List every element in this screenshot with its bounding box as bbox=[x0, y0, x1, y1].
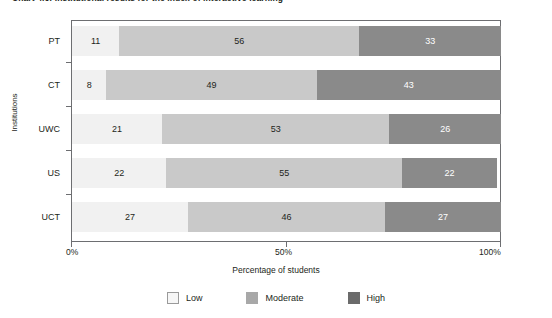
legend: Low Moderate High bbox=[0, 292, 552, 304]
legend-item-low[interactable]: Low bbox=[167, 292, 203, 304]
bar-segment-moderate-uct: 46 bbox=[188, 202, 385, 232]
bar-row-pt: PT 11 56 33 bbox=[72, 26, 501, 56]
legend-label-high: High bbox=[367, 293, 386, 303]
legend-swatch-moderate-icon bbox=[246, 292, 258, 304]
bar-segment-low-uwc: 21 bbox=[72, 114, 162, 144]
bar-segment-high-us: 22 bbox=[402, 158, 496, 188]
x-tick-label-100: 100% bbox=[479, 247, 501, 257]
stacked-bar-uct: 27 46 27 bbox=[72, 202, 501, 232]
chart-title: Chart 4.6: Institutional results for the… bbox=[12, 0, 283, 3]
plot-area: PT 11 56 33 CT 8 49 43 UWC 21 53 26 US 2… bbox=[71, 20, 501, 242]
legend-item-moderate[interactable]: Moderate bbox=[246, 292, 303, 304]
legend-label-low: Low bbox=[186, 293, 203, 303]
bar-segment-low-ct: 8 bbox=[72, 70, 106, 100]
y-tick-label-uct: UCT bbox=[42, 212, 61, 222]
legend-label-moderate: Moderate bbox=[265, 293, 303, 303]
bar-row-uct: UCT 27 46 27 bbox=[72, 202, 501, 232]
x-tick-label-0: 0% bbox=[66, 247, 78, 257]
bar-segment-moderate-us: 55 bbox=[166, 158, 402, 188]
y-axis-title: Institutions bbox=[10, 73, 19, 153]
y-tick-label-ct: CT bbox=[48, 80, 60, 90]
bar-segment-moderate-uwc: 53 bbox=[162, 114, 389, 144]
bar-row-us: US 22 55 22 bbox=[72, 158, 501, 188]
bar-segment-moderate-pt: 56 bbox=[119, 26, 359, 56]
stacked-bar-us: 22 55 22 bbox=[72, 158, 501, 188]
y-axis-tick bbox=[66, 62, 72, 63]
x-axis-title: Percentage of students bbox=[0, 265, 552, 275]
stacked-bar-uwc: 21 53 26 bbox=[72, 114, 501, 144]
bar-segment-high-pt: 33 bbox=[359, 26, 501, 56]
y-axis-tick bbox=[66, 106, 72, 107]
y-tick-label-uwc: UWC bbox=[39, 124, 61, 134]
y-tick-label-us: US bbox=[47, 168, 60, 178]
bar-segment-high-uwc: 26 bbox=[389, 114, 501, 144]
legend-swatch-low-icon bbox=[167, 292, 179, 304]
bar-row-uwc: UWC 21 53 26 bbox=[72, 114, 501, 144]
x-tick-label-50: 50% bbox=[275, 247, 292, 257]
legend-item-high[interactable]: High bbox=[348, 292, 386, 304]
bar-segment-low-uct: 27 bbox=[72, 202, 188, 232]
y-axis-tick bbox=[66, 150, 72, 151]
bar-segment-low-pt: 11 bbox=[72, 26, 119, 56]
stacked-bar-pt: 11 56 33 bbox=[72, 26, 501, 56]
bar-row-ct: CT 8 49 43 bbox=[72, 70, 501, 100]
y-tick-label-pt: PT bbox=[48, 36, 60, 46]
bar-segment-moderate-ct: 49 bbox=[106, 70, 316, 100]
plot-top-border bbox=[71, 20, 501, 21]
stacked-bar-ct: 8 49 43 bbox=[72, 70, 501, 100]
y-axis-tick bbox=[66, 194, 72, 195]
legend-swatch-high-icon bbox=[348, 292, 360, 304]
bar-segment-high-ct: 43 bbox=[317, 70, 501, 100]
bar-segment-high-uct: 27 bbox=[385, 202, 501, 232]
bar-segment-low-us: 22 bbox=[72, 158, 166, 188]
